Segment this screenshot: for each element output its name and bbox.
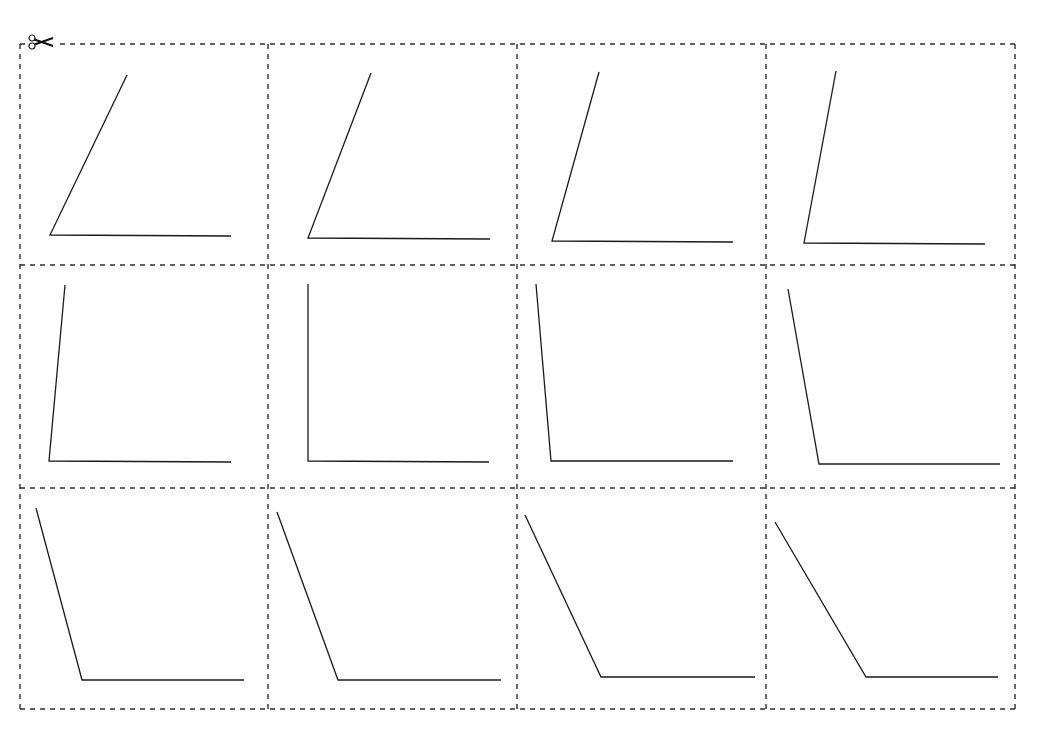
angle-card-r3-c2 — [277, 512, 501, 680]
angle-card-r2-c3 — [536, 284, 733, 461]
angle-card-r1-c2 — [308, 73, 490, 239]
scissors-icon — [27, 33, 55, 51]
angle-cards-sheet — [0, 0, 1054, 742]
angle-card-r2-c1 — [49, 285, 231, 462]
angle-card-r2-c2 — [308, 284, 489, 462]
angle-drawings — [36, 71, 1000, 680]
angle-card-r1-c4 — [804, 71, 985, 244]
angle-card-r3-c1 — [36, 508, 244, 680]
angle-card-r3-c4 — [775, 522, 998, 677]
angle-card-r1-c1 — [50, 75, 231, 236]
cut-lines — [20, 44, 1015, 709]
angle-card-r1-c3 — [552, 72, 733, 242]
angle-card-r2-c4 — [788, 289, 1000, 464]
angle-card-r3-c3 — [525, 515, 755, 677]
